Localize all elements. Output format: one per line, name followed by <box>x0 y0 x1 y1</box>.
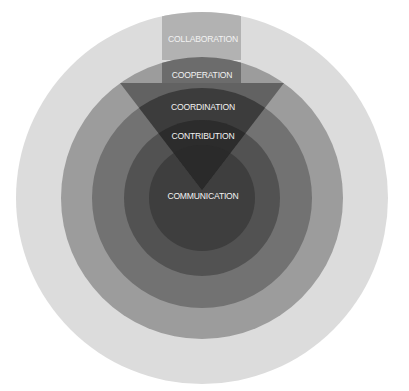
label-cooperation: COOPERATION <box>172 70 233 80</box>
label-contribution: CONTRIBUTION <box>171 131 234 141</box>
label-collaboration: COLLABORATION <box>168 34 238 44</box>
label-communication: COMMUNICATION <box>167 191 238 201</box>
collaboration-levels-diagram: COLLABORATION COOPERATION COORDINATION C… <box>0 0 409 391</box>
band-collaboration <box>162 0 241 60</box>
label-coordination: COORDINATION <box>171 102 235 112</box>
